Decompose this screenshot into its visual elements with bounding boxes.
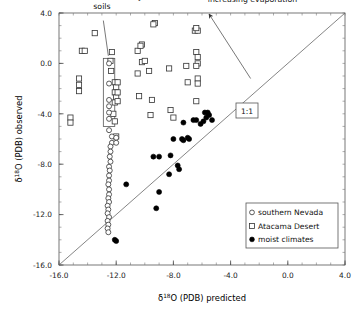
y-tick-label: 0.0 — [40, 59, 52, 68]
data-point — [107, 110, 112, 115]
data-point — [181, 120, 186, 125]
x-axis-title: δ18O (PDB) predicted — [158, 293, 246, 303]
data-point — [82, 48, 87, 53]
x-tick-label: -8.0 — [166, 271, 181, 280]
data-point — [107, 116, 112, 121]
data-point — [115, 90, 120, 95]
data-point — [107, 104, 112, 109]
plot-canvas: Death Valley soils increasing evaporatio… — [0, 0, 359, 319]
x-tick-label: -12.0 — [107, 271, 126, 280]
x-tick-label: 0.0 — [282, 271, 294, 280]
data-point — [194, 99, 199, 104]
data-point — [107, 154, 112, 159]
data-point — [171, 137, 176, 142]
data-point — [124, 182, 129, 187]
legend-label: southern Nevada — [258, 208, 323, 217]
data-point — [107, 61, 112, 66]
scatter-plot-figure: Death Valley soils increasing evaporatio… — [0, 0, 359, 319]
y-tick-label: -8.0 — [38, 160, 53, 169]
x-tick-label: -4.0 — [223, 271, 238, 280]
data-point — [76, 76, 81, 81]
legend-entries: southern NevadaAtacama Desertmoist clima… — [250, 208, 324, 244]
data-point — [154, 206, 159, 211]
data-point — [157, 189, 162, 194]
data-point — [109, 49, 114, 54]
data-point — [194, 26, 199, 31]
data-point — [108, 159, 113, 164]
data-point — [109, 68, 114, 73]
data-point — [195, 76, 200, 81]
data-point — [151, 22, 156, 27]
data-point — [194, 63, 199, 68]
data-point — [185, 80, 190, 85]
data-point — [177, 167, 182, 172]
data-point — [108, 149, 113, 154]
data-point — [135, 71, 140, 76]
data-point — [107, 168, 112, 173]
data-point — [107, 128, 112, 133]
data-point — [76, 82, 81, 87]
data-point — [138, 43, 143, 48]
data-point — [115, 99, 120, 104]
data-point — [107, 187, 112, 192]
data-point — [107, 81, 112, 86]
data-point — [136, 94, 141, 99]
data-point — [68, 115, 73, 120]
data-point — [171, 115, 176, 120]
data-point — [157, 154, 162, 159]
increasing-evaporation-label: increasing evaporation — [208, 0, 297, 4]
x-tick-labels: -16.0-12.0-8.0-4.00.04.0 — [49, 271, 351, 280]
death-valley-label-line2: soils — [93, 2, 110, 11]
data-point — [151, 154, 156, 159]
data-point — [115, 80, 120, 85]
data-point — [107, 97, 112, 102]
data-point — [167, 172, 172, 177]
data-point — [181, 138, 186, 143]
y-tick-label: -16.0 — [33, 261, 52, 270]
legend-marker-filled-circle-icon — [250, 237, 255, 242]
data-point — [112, 119, 117, 124]
data-point — [195, 81, 200, 86]
data-point — [167, 66, 172, 71]
data-point — [106, 182, 111, 187]
y-tick-labels: 4.00.0-4.0-8.0-12.0-16.0 — [33, 9, 52, 270]
y-tick-label: 4.0 — [40, 9, 52, 18]
data-point — [107, 173, 112, 178]
data-point — [92, 31, 97, 36]
data-point — [135, 48, 140, 53]
data-point — [106, 230, 111, 235]
y-tick-label: -4.0 — [38, 110, 53, 119]
data-point — [194, 49, 199, 54]
legend-label: moist climates — [258, 235, 314, 244]
data-point — [114, 239, 119, 244]
legend-marker-open-circle-icon — [250, 210, 255, 215]
data-point — [210, 118, 215, 123]
legend-marker-open-square-icon — [250, 223, 255, 228]
data-point — [76, 89, 81, 94]
data-point — [207, 113, 212, 118]
data-point — [114, 135, 119, 140]
y-axis-title: δ18O (PDB) observed — [14, 95, 24, 182]
ratio-label-text: 1:1 — [241, 107, 253, 116]
data-point — [68, 120, 73, 125]
legend-label: Atacama Desert — [258, 222, 319, 231]
data-point — [195, 55, 200, 60]
data-point — [148, 112, 153, 117]
data-point — [168, 107, 173, 112]
y-tick-label: -12.0 — [33, 210, 52, 219]
data-point — [108, 144, 113, 149]
data-point — [187, 137, 192, 142]
x-tick-label: 4.0 — [339, 271, 351, 280]
x-tick-label: -16.0 — [49, 271, 68, 280]
data-point — [168, 153, 173, 158]
data-point — [149, 97, 154, 102]
data-point — [198, 121, 203, 126]
data-point — [191, 118, 196, 123]
data-point — [142, 58, 147, 63]
data-point — [114, 85, 119, 90]
data-point — [184, 63, 189, 68]
data-point — [114, 140, 119, 145]
data-point — [146, 68, 151, 73]
